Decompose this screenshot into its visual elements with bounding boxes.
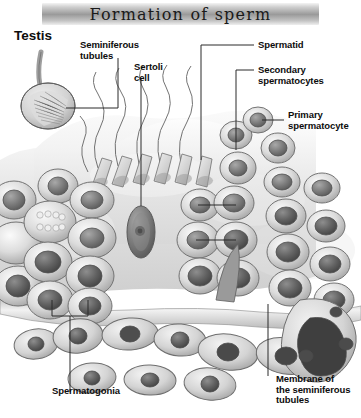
label-membrane-of-seminiferous-tubules: Membrane of the seminiferous tubules [276, 374, 350, 406]
germ-cell-column-left [0, 169, 116, 324]
label-spermatogonia: Spermatogonia [52, 386, 120, 397]
label-spermatid: Spermatid [258, 40, 304, 51]
figure-formation-of-sperm: Formation of sperm Testis Seminiferous t… [0, 0, 361, 418]
label-sertoli-cell: Sertoli cell [134, 62, 163, 83]
label-seminiferous-tubules: Seminiferous tubules [80, 40, 139, 61]
label-primary-spermatocyte: Primary spermatocyte [288, 110, 349, 131]
sertoli-cell-shape [127, 206, 155, 258]
page-title: Formation of sperm [42, 3, 319, 25]
testis-illustration [21, 52, 75, 129]
illustration-canvas [0, 0, 361, 418]
label-secondary-spermatocytes: Secondary spermatocytes [258, 65, 324, 86]
title-banner: Formation of sperm [42, 3, 319, 25]
label-testis: Testis [14, 31, 52, 42]
